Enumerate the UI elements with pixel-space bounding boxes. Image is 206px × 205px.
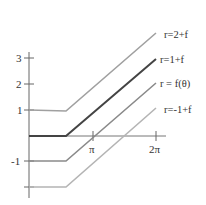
label-r-1-plus-f: r=1+f (160, 54, 185, 65)
label-r-minus1-plus-f: r=-1+f (164, 104, 192, 115)
y-tick-label-minus1: -1 (11, 155, 20, 167)
y-tick-label-1: 1 (17, 104, 23, 116)
y-tick-label-3: 3 (16, 52, 22, 64)
y-tick-label-2: 2 (16, 78, 22, 90)
x-tick-label-2pi: 2π (149, 143, 161, 155)
x-tick-label-pi: π (89, 143, 95, 155)
label-r-2-plus-f: r=2+f (164, 29, 189, 40)
chart: 3 2 1 -1 π 2π r=2+f r=1+f r = f(θ) r=-1+… (0, 0, 206, 205)
label-r-f-theta: r = f(θ) (160, 78, 191, 90)
